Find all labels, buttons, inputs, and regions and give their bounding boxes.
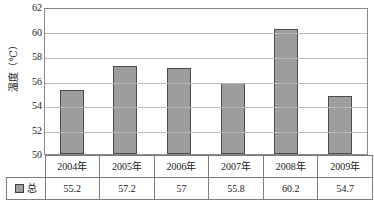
- table-row-categories: 2004年2005年2006年2007年2008年2009年: [7, 156, 373, 178]
- plot-area: [44, 8, 368, 155]
- gridline: [45, 107, 367, 108]
- table-category-cell: 2005年: [100, 156, 155, 178]
- table-corner-cell: [7, 156, 46, 178]
- bar[interactable]: [167, 68, 191, 154]
- gridline: [45, 58, 367, 59]
- table-category-cell: 2007年: [209, 156, 264, 178]
- gridline: [45, 132, 367, 133]
- y-axis-tick-label: 62: [16, 3, 42, 13]
- bar[interactable]: [60, 90, 84, 154]
- table-value-cell: 54.7: [318, 178, 373, 200]
- legend-label: 总: [27, 183, 37, 195]
- y-axis-tick-label: 60: [16, 28, 42, 38]
- y-axis-tick-label: 58: [16, 52, 42, 62]
- y-axis-tick-label: 52: [16, 126, 42, 136]
- table-value-cell: 57: [154, 178, 209, 200]
- table-value-cell: 55.8: [209, 178, 264, 200]
- table-value-cell: 55.2: [45, 178, 100, 200]
- y-axis-tick-label: 56: [16, 77, 42, 87]
- y-axis-tick-label: 54: [16, 101, 42, 111]
- bar[interactable]: [274, 29, 298, 154]
- table-category-cell: 2006年: [154, 156, 209, 178]
- table-row-series: 总 55.257.25755.860.254.7: [7, 178, 373, 200]
- gridline: [45, 83, 367, 84]
- table-category-cell: 2004年: [45, 156, 100, 178]
- y-axis-tick-labels: 62605856545250: [16, 0, 42, 160]
- series-color-swatch-icon: [15, 184, 24, 193]
- gridline: [45, 33, 367, 34]
- bar[interactable]: [328, 96, 352, 154]
- bar-chart-figure: 温度（℃） 62605856545250 2004年2005年2006年2007…: [0, 0, 374, 208]
- table-category-cell: 2009年: [318, 156, 373, 178]
- data-table: 2004年2005年2006年2007年2008年2009年 总 55.257.…: [6, 155, 373, 200]
- table-value-cell: 57.2: [100, 178, 155, 200]
- bar[interactable]: [221, 83, 245, 154]
- legend-cell: 总: [7, 178, 46, 200]
- bar[interactable]: [113, 66, 137, 154]
- table-value-cell: 60.2: [263, 178, 318, 200]
- table-category-cell: 2008年: [263, 156, 318, 178]
